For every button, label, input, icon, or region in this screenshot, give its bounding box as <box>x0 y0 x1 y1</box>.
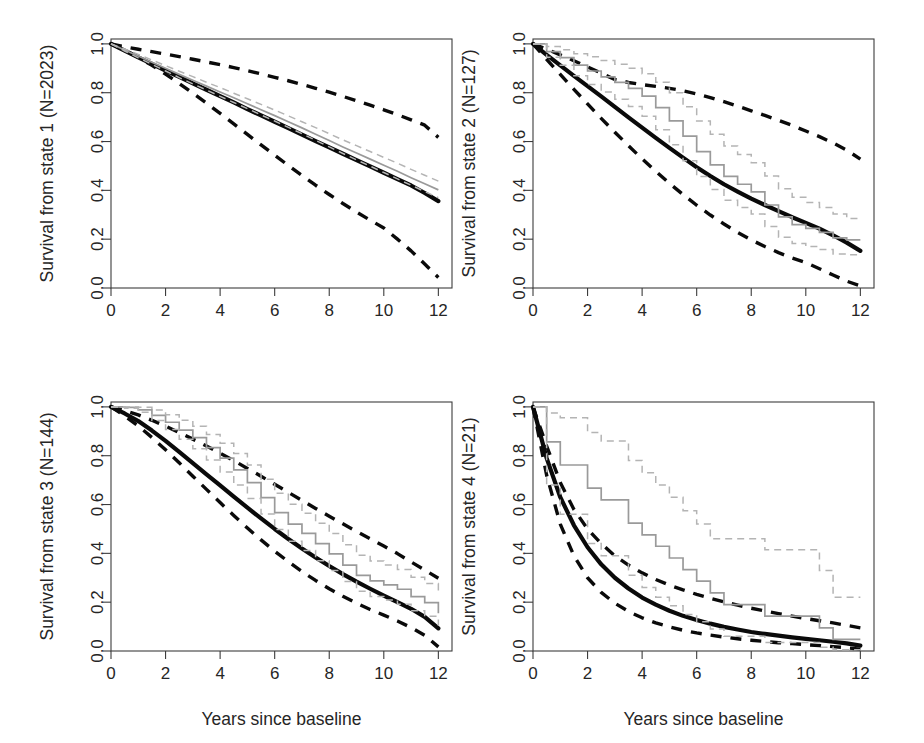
y-tick-label: 0.8 <box>510 444 529 468</box>
x-tick-label: 0 <box>528 301 537 320</box>
y-tick-label: 0.8 <box>510 81 529 105</box>
y-tick-label: 1.0 <box>88 32 107 56</box>
x-tick-label: 0 <box>106 301 115 320</box>
curve-kaplan-meier-ci-lower <box>533 407 860 650</box>
x-tick-label: 10 <box>374 664 393 683</box>
y-axis-title: Survival from state 4 (N=21) <box>459 417 479 635</box>
y-tick-label: 1.0 <box>510 32 529 56</box>
curve-kaplan-meier-ci-lower <box>111 407 438 626</box>
y-tick-label: 0.2 <box>88 227 107 251</box>
curve-kaplan-meier <box>533 44 860 240</box>
x-tick-label: 4 <box>215 664 224 683</box>
survival-curve-figure: 0246810120.00.20.40.60.81.0Survival from… <box>0 0 924 743</box>
y-tick-label: 0.0 <box>510 639 529 663</box>
x-axis-title: Years since baseline <box>202 709 362 729</box>
x-axis-title: Years since baseline <box>624 709 784 729</box>
x-tick-label: 10 <box>796 301 815 320</box>
x-tick-label: 8 <box>747 301 756 320</box>
x-tick-label: 2 <box>583 301 592 320</box>
x-tick-label: 4 <box>637 301 646 320</box>
x-tick-label: 6 <box>270 301 279 320</box>
y-axis-title: Survival from state 1 (N=2023) <box>37 45 57 283</box>
x-tick-label: 0 <box>528 664 537 683</box>
y-tick-label: 0.0 <box>88 639 107 663</box>
curve-model-fit <box>111 44 438 201</box>
y-tick-label: 0.6 <box>88 130 107 154</box>
curve-model-fit <box>111 407 438 628</box>
y-tick-label: 1.0 <box>88 395 107 419</box>
y-tick-label: 0.4 <box>88 179 107 203</box>
x-tick-label: 4 <box>637 664 646 683</box>
x-tick-label: 10 <box>374 301 393 320</box>
y-axis-title: Survival from state 3 (N=144) <box>37 412 57 640</box>
y-axis-title: Survival from state 2 (N=127) <box>459 49 479 277</box>
y-tick-label: 0.8 <box>88 444 107 468</box>
x-tick-label: 12 <box>851 664 870 683</box>
y-tick-label: 0.4 <box>510 179 529 203</box>
x-tick-label: 8 <box>325 301 334 320</box>
x-tick-label: 12 <box>851 301 870 320</box>
plot-area-state-4: 0246810120.00.20.40.60.81.0Survival from… <box>422 363 924 743</box>
panel-state-2: 0246810120.00.20.40.60.81.0Survival from… <box>422 0 924 380</box>
curve-model-fit <box>533 407 860 646</box>
x-tick-label: 10 <box>796 664 815 683</box>
y-tick-label: 0.6 <box>88 493 107 517</box>
x-tick-label: 0 <box>106 664 115 683</box>
x-tick-label: 2 <box>583 664 592 683</box>
y-tick-label: 0.4 <box>88 542 107 566</box>
y-tick-label: 0.0 <box>510 276 529 300</box>
y-tick-label: 0.2 <box>510 590 529 614</box>
panel-state-4: 0246810120.00.20.40.60.81.0Survival from… <box>422 363 924 743</box>
curve-kaplan-meier-ci-upper <box>533 44 860 220</box>
curve-model-ci-lower <box>533 407 860 649</box>
x-tick-label: 6 <box>692 664 701 683</box>
x-tick-label: 4 <box>215 301 224 320</box>
x-tick-label: 8 <box>747 664 756 683</box>
y-tick-label: 0.4 <box>510 542 529 566</box>
y-tick-label: 0.2 <box>88 590 107 614</box>
x-tick-label: 8 <box>325 664 334 683</box>
x-tick-label: 6 <box>692 301 701 320</box>
curve-kaplan-meier <box>111 44 438 190</box>
y-tick-label: 0.0 <box>88 276 107 300</box>
x-tick-label: 6 <box>270 664 279 683</box>
x-tick-label: 2 <box>161 664 170 683</box>
y-tick-label: 0.2 <box>510 227 529 251</box>
y-tick-label: 0.6 <box>510 493 529 517</box>
curve-model-ci-upper <box>111 407 438 578</box>
y-tick-label: 0.8 <box>88 81 107 105</box>
y-tick-label: 1.0 <box>510 395 529 419</box>
x-tick-label: 2 <box>161 301 170 320</box>
curve-model-ci-upper <box>533 407 860 628</box>
y-tick-label: 0.6 <box>510 130 529 154</box>
plot-area-state-2: 0246810120.00.20.40.60.81.0Survival from… <box>422 0 924 380</box>
